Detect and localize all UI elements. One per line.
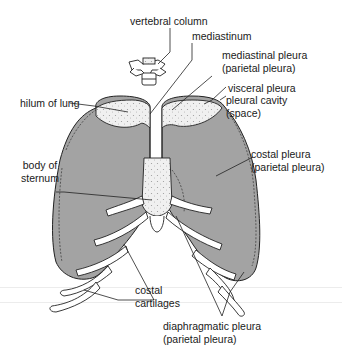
sternum (142, 158, 172, 232)
label-line: (space) (226, 107, 287, 120)
label-diaphragmatic-pleura: diaphragmatic pleura (parietal pleura) (163, 320, 261, 345)
label-line: (parietal pleura) (163, 333, 261, 346)
right-lung (162, 96, 260, 281)
label-line: (parietal pleura) (222, 62, 307, 75)
label-pleural-cavity: pleural cavity (space) (226, 94, 287, 119)
left-lung (53, 96, 150, 279)
label-line: body of (21, 159, 59, 172)
label-mediastinal-pleura: mediastinal pleura (parietal pleura) (222, 49, 307, 74)
label-line: costal pleura (251, 148, 325, 161)
label-line: sternum (21, 172, 59, 185)
label-line: cartilages (135, 297, 180, 310)
label-line: mediastinal pleura (222, 49, 307, 62)
label-line: (parietal pleura) (251, 161, 325, 174)
label-body-of-sternum: body of sternum (21, 159, 59, 184)
label-line: pleural cavity (226, 94, 287, 107)
label-vertebral-column: vertebral column (130, 15, 208, 28)
label-line: diaphragmatic pleura (163, 320, 261, 333)
label-costal-pleura: costal pleura (parietal pleura) (251, 148, 325, 173)
label-costal-cartilages: costal cartilages (135, 284, 180, 309)
label-mediastinum: mediastinum (192, 30, 252, 43)
label-line: costal (135, 284, 180, 297)
label-visceral-pleura: visceral pleura (228, 82, 296, 95)
label-hilum-of-lung: hilum of lung (20, 97, 80, 110)
